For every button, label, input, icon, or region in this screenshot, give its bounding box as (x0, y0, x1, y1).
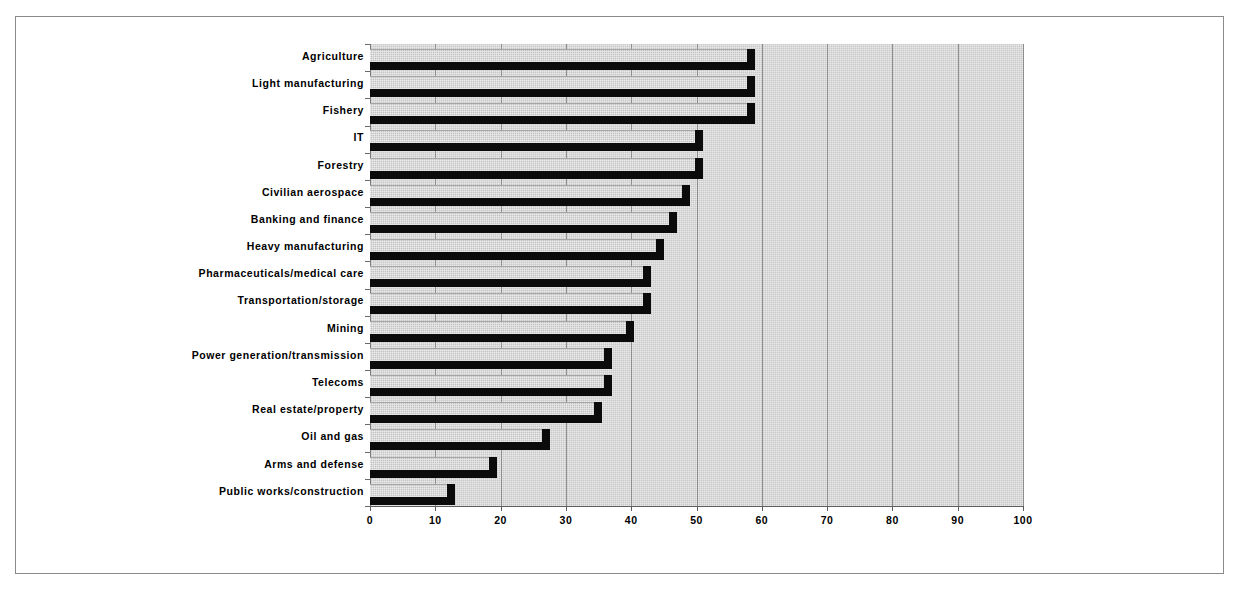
chart-frame: AgricultureLight manufacturingFisheryITF… (15, 16, 1224, 574)
bar-body (370, 212, 677, 225)
y-tick (365, 180, 370, 181)
category-label-10: Mining (16, 322, 364, 334)
category-axis-labels: AgricultureLight manufacturingFisheryITF… (16, 44, 364, 506)
y-tick (365, 261, 370, 262)
x-tick-50 (697, 506, 698, 511)
y-tick (365, 424, 370, 425)
bar-body (370, 49, 755, 62)
y-tick (365, 71, 370, 72)
bar-row (370, 424, 1023, 451)
x-tick-label-100: 100 (1003, 514, 1043, 526)
x-tick-90 (958, 506, 959, 511)
x-tick-label-40: 40 (611, 514, 651, 526)
x-tick-80 (892, 506, 893, 511)
category-label-7: Heavy manufacturing (16, 240, 364, 252)
bar-row (370, 261, 1023, 288)
bar-body (370, 457, 497, 470)
x-tick-20 (501, 506, 502, 511)
bar-end-cap (682, 185, 690, 198)
category-label-5: Civilian aerospace (16, 186, 364, 198)
bar-body (370, 158, 703, 171)
category-label-3: IT (16, 131, 364, 143)
category-label-13: Real estate/property (16, 403, 364, 415)
bar-end-cap (747, 49, 755, 62)
bar-row (370, 452, 1023, 479)
y-tick (365, 234, 370, 235)
bar-row (370, 234, 1023, 261)
x-tick-30 (566, 506, 567, 511)
bar-body (370, 484, 455, 497)
bar-end-cap (489, 457, 497, 470)
bar-row (370, 44, 1023, 71)
bar-body (370, 239, 664, 252)
bar-end-cap (604, 375, 612, 388)
bar-row (370, 343, 1023, 370)
bar-row (370, 207, 1023, 234)
x-tick-label-30: 30 (546, 514, 586, 526)
bar-end-cap (695, 130, 703, 143)
x-tick-40 (631, 506, 632, 511)
bar-row (370, 370, 1023, 397)
bar-row (370, 180, 1023, 207)
bar-body (370, 130, 703, 143)
bar-row (370, 479, 1023, 506)
x-tick-100 (1023, 506, 1024, 511)
bar-row (370, 397, 1023, 424)
x-tick-label-60: 60 (742, 514, 782, 526)
bar-end-cap (643, 293, 651, 306)
bar-body (370, 348, 612, 361)
bar-shadow (370, 198, 690, 206)
x-tick-60 (762, 506, 763, 511)
bar-shadow (370, 143, 703, 151)
bar-shadow (370, 497, 455, 505)
x-tick-70 (827, 506, 828, 511)
bar-end-cap (669, 212, 677, 225)
bar-shadow (370, 171, 703, 179)
x-tick-10 (435, 506, 436, 511)
y-tick (365, 343, 370, 344)
y-tick (365, 289, 370, 290)
bar-body (370, 402, 602, 415)
x-tick-label-80: 80 (872, 514, 912, 526)
bar-end-cap (695, 158, 703, 171)
x-tick-0 (370, 506, 371, 511)
bar-body (370, 266, 651, 279)
category-label-14: Oil and gas (16, 430, 364, 442)
category-label-15: Arms and defense (16, 458, 364, 470)
bar-shadow (370, 306, 651, 314)
bar-series (370, 44, 1023, 506)
y-tick (365, 98, 370, 99)
y-tick (365, 397, 370, 398)
category-label-16: Public works/construction (16, 485, 364, 497)
category-label-12: Telecoms (16, 376, 364, 388)
bar-body (370, 185, 690, 198)
y-tick (365, 479, 370, 480)
bar-shadow (370, 116, 755, 124)
y-tick (365, 153, 370, 154)
x-tick-label-0: 0 (350, 514, 390, 526)
bar-shadow (370, 225, 677, 233)
bar-body (370, 76, 755, 89)
bar-end-cap (643, 266, 651, 279)
y-tick (365, 506, 370, 507)
bar-body (370, 375, 612, 388)
x-tick-label-10: 10 (415, 514, 455, 526)
category-label-4: Forestry (16, 159, 364, 171)
bar-shadow (370, 361, 612, 369)
bar-row (370, 98, 1023, 125)
bar-shadow (370, 415, 602, 423)
x-tick-label-90: 90 (938, 514, 978, 526)
bar-shadow (370, 252, 664, 260)
bar-shadow (370, 334, 634, 342)
bar-body (370, 321, 634, 334)
bar-shadow (370, 388, 612, 396)
bar-row (370, 71, 1023, 98)
bar-shadow (370, 442, 550, 450)
bar-row (370, 316, 1023, 343)
bar-end-cap (656, 239, 664, 252)
bar-body (370, 103, 755, 116)
y-tick (365, 126, 370, 127)
x-tick-label-50: 50 (677, 514, 717, 526)
y-tick (365, 452, 370, 453)
y-tick (365, 370, 370, 371)
